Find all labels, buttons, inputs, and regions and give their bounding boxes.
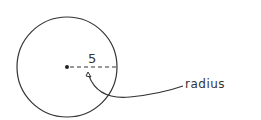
radius-value-label: 5	[88, 51, 96, 66]
center-point	[65, 65, 69, 69]
pointer-curve	[89, 76, 183, 97]
circle-diagram: 5 radius	[0, 0, 261, 120]
arrowhead-icon	[86, 72, 91, 77]
radius-annotation-label: radius	[185, 77, 225, 91]
